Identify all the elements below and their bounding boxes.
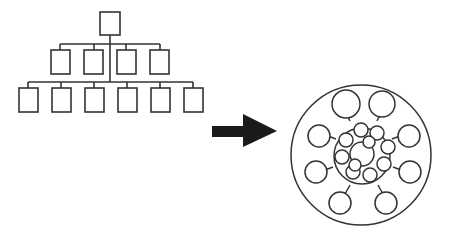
level3-node bbox=[19, 88, 38, 112]
outer-node bbox=[305, 161, 327, 183]
network-diagram bbox=[291, 85, 431, 225]
diagram-canvas bbox=[0, 0, 453, 234]
inner-node bbox=[381, 140, 395, 154]
level2-node bbox=[84, 50, 103, 74]
level3-node bbox=[118, 88, 137, 112]
outer-node bbox=[399, 161, 421, 183]
level3-node bbox=[85, 88, 104, 112]
hierarchy-chart bbox=[19, 12, 203, 112]
outer-node bbox=[308, 125, 330, 147]
level2-node bbox=[150, 50, 169, 74]
level2-node bbox=[51, 50, 70, 74]
inner-node bbox=[335, 150, 349, 164]
level3-node bbox=[52, 88, 71, 112]
level2-node bbox=[117, 50, 136, 74]
arrow-right-icon bbox=[212, 114, 277, 147]
level3-node bbox=[151, 88, 170, 112]
outer-node bbox=[329, 192, 351, 214]
inner-node bbox=[363, 168, 377, 182]
outer-node bbox=[369, 91, 395, 117]
inner-node bbox=[349, 159, 361, 171]
inner-node bbox=[339, 133, 353, 147]
level3-node bbox=[184, 88, 203, 112]
outer-node bbox=[332, 90, 360, 118]
outer-node bbox=[375, 192, 397, 214]
inner-node bbox=[377, 157, 391, 171]
inner-node bbox=[363, 136, 375, 148]
outer-node bbox=[398, 125, 420, 147]
inner-node bbox=[354, 123, 368, 137]
root-node bbox=[100, 12, 120, 35]
